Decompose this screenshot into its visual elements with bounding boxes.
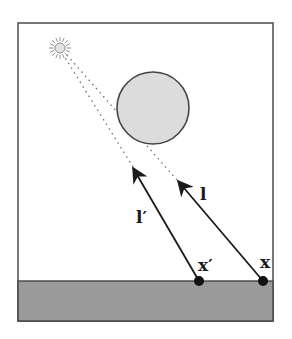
label-ray-l: l bbox=[200, 184, 207, 204]
label-point-x: x bbox=[260, 252, 271, 272]
point-x-prime bbox=[194, 276, 204, 286]
ground-plane bbox=[18, 281, 273, 321]
sun-icon bbox=[49, 37, 71, 59]
label-ray-l-prime: l′ bbox=[136, 207, 147, 227]
shadow-diagram: l′ l x′ x bbox=[0, 0, 292, 339]
point-x bbox=[258, 276, 268, 286]
occluder-sphere bbox=[117, 72, 189, 144]
label-point-x-prime: x′ bbox=[198, 255, 213, 275]
scene-frame bbox=[18, 23, 273, 321]
